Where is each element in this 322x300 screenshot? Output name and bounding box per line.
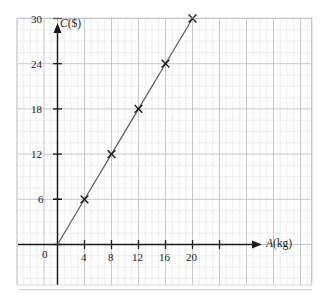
y-axis-unit: ($) [68, 17, 81, 29]
x-axis-title: A(kg) [266, 238, 292, 250]
y-tick-label: 24 [31, 59, 42, 70]
y-axis-title: C($) [60, 18, 81, 30]
x-tick-label: 8 [108, 252, 114, 263]
x-axis-unit: (kg) [273, 237, 292, 249]
y-tick-label: 12 [31, 149, 42, 160]
x-tick-label: 12 [132, 252, 143, 263]
y-tick-label: 6 [38, 194, 44, 205]
y-tick-label: 30 [31, 14, 42, 25]
x-tick-label: 20 [186, 252, 197, 263]
x-tick-label: 4 [81, 252, 87, 263]
origin-tick-label: 0 [42, 249, 48, 260]
y-axis-variable: C [60, 17, 68, 29]
x-axis-variable: A [266, 237, 273, 249]
chart-container: C($) A(kg) 0 4 8 12 16 20 6 12 18 24 30 [0, 0, 322, 300]
x-tick-label: 16 [159, 252, 170, 263]
y-tick-label: 18 [31, 104, 42, 115]
